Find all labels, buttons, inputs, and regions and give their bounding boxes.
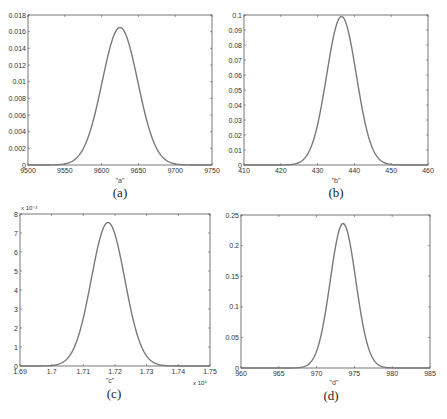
panel-label: (b) [328,185,343,200]
x-axis-ticks: 950095509600965097009750 [20,15,220,174]
x-axis-label: "b" [332,177,341,184]
x-tick-label: 1.69 [13,368,27,375]
x-tick-label: 460 [422,167,434,174]
pdf-curve [20,223,210,366]
x-axis-label: "a" [116,177,125,184]
x-tick-label: 970 [311,370,323,377]
plot-area [241,215,430,368]
chart-panel-b: 00.010.020.030.040.050.060.070.080.090.1… [228,12,434,201]
figure-canvas: 00.0020.0040.0060.0080.010.0120.0140.016… [0,0,447,419]
x-tick-label: 9650 [131,167,147,174]
y-tick-label: 8 [14,211,18,218]
y-tick-label: 0.09 [228,27,242,34]
y-tick-label: 0.016 [8,28,26,35]
y-tick-label: 0.1 [232,12,242,19]
x-axis-ticks: 1.691.71.711.721.731.741.75 [13,214,217,375]
y-axis-ticks: 00.050.10.150.20.25 [225,212,430,372]
x-tick-label: 450 [385,167,397,174]
x-tick-label: 1.73 [140,368,154,375]
y-tick-label: 0.03 [228,117,242,124]
pdf-curve [28,28,212,166]
y-tick-label: 0.01 [228,147,242,154]
y-tick-label: 0.01 [12,78,26,85]
panel-label: (c) [107,386,121,401]
y-tick-label: 0.25 [225,212,239,219]
y-tick-label: 0.2 [229,242,239,249]
y-tick-label: 5 [14,268,18,275]
y-tick-label: 6 [14,249,18,256]
x-tick-label: 965 [273,370,285,377]
x-tick-label: 9600 [94,167,110,174]
panel-label: (a) [113,185,127,200]
x-tick-label: 9500 [20,167,36,174]
x-tick-label: 1.72 [108,368,122,375]
y-tick-label: 0.02 [228,132,242,139]
y-tick-label: 7 [14,230,18,237]
y-tick-label: 0.15 [225,273,239,280]
x-tick-label: 980 [386,370,398,377]
plot-area [28,15,212,165]
x-tick-label: 420 [275,167,287,174]
y-tick-label: 0.06 [228,72,242,79]
y-tick-label: 0.04 [228,102,242,109]
x-axis-ticks: 960965970975980985 [235,215,436,377]
y-tick-label: 4 [14,287,18,294]
y-tick-label: 0.006 [8,112,26,119]
plot-area [244,15,428,165]
pdf-curve [244,17,428,166]
y-tick-label: 1 [14,344,18,351]
y-tick-label: 0.014 [8,45,26,52]
y-tick-label: 0.002 [8,145,26,152]
y-axis-ticks: 00.0020.0040.0060.0080.010.0120.0140.016… [8,12,212,169]
x-axis-label: "d" [330,379,339,386]
y-tick-label: 0.018 [8,12,26,19]
panel-label: (d) [323,388,338,403]
chart-panel-c: 012345678 1.691.71.711.721.731.741.75 "c… [13,205,217,401]
x-tick-label: 975 [349,370,361,377]
x-tick-label: 9700 [167,167,183,174]
y-tick-label: 0.012 [8,62,26,69]
y-axis-ticks: 012345678 [14,211,210,370]
x-tick-label: 960 [235,370,247,377]
x-exponent-label: x 10⁴ [193,380,207,386]
x-axis-label: "c" [106,377,115,384]
x-axis-ticks: 410420430440450460 [238,15,434,174]
x-tick-label: 985 [424,370,436,377]
x-tick-label: 9550 [57,167,73,174]
y-tick-label: 2 [14,325,18,332]
y-tick-label: 0.004 [8,128,26,135]
x-tick-label: 430 [312,167,324,174]
x-tick-label: 1.7 [47,368,57,375]
chart-panel-a: 00.0020.0040.0060.0080.010.0120.0140.016… [8,12,219,201]
y-tick-label: 0.05 [228,87,242,94]
y-tick-label: 0.05 [225,334,239,341]
x-tick-label: 1.74 [172,368,186,375]
y-tick-label: 3 [14,306,18,313]
x-tick-label: 1.71 [77,368,91,375]
y-tick-label: 0.008 [8,95,26,102]
pdf-curve [241,224,430,368]
y-axis-ticks: 00.010.020.030.040.050.060.070.080.090.1 [228,12,428,169]
x-tick-label: 1.75 [203,368,217,375]
x-tick-label: 440 [349,167,361,174]
y-tick-label: 0.07 [228,57,242,64]
y-exponent-label: x 10⁻³ [21,205,37,211]
x-tick-label: 410 [238,167,250,174]
y-tick-label: 0.1 [229,303,239,310]
x-tick-label: 9750 [204,167,220,174]
chart-panel-d: 00.050.10.150.20.25 960965970975980985 "… [225,212,436,404]
y-tick-label: 0.08 [228,42,242,49]
